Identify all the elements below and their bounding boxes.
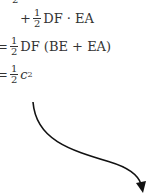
- curved-arrow-icon: [0, 0, 159, 194]
